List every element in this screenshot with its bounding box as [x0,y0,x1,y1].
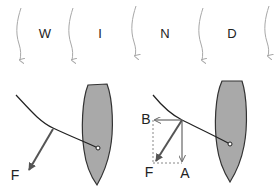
force-f-arrow [156,120,182,161]
mast-pivot [228,142,232,146]
wind-letter: W [39,26,51,41]
force-f-arrow [29,129,53,170]
right-boat [153,81,246,182]
left-boat [16,84,112,185]
component-b-label: B [141,111,150,127]
component-a-label: A [180,165,189,181]
left-force-label: F [11,167,20,183]
wind-letter: D [227,26,236,41]
sail-force-diagram: W I N D F B F A [0,0,275,190]
right-force-label: F [145,164,154,180]
wind-arrow-icon [132,6,136,56]
hull-icon [82,84,112,185]
wind-letter: I [98,26,102,41]
hull-icon [215,81,246,182]
wind-arrow-icon [17,8,21,60]
wind-arrow-icon [199,8,203,60]
wind-arrow-icon [265,6,269,56]
mast-pivot [96,146,100,150]
wind-letter: N [160,26,169,41]
wind-arrow-icon [69,8,73,60]
